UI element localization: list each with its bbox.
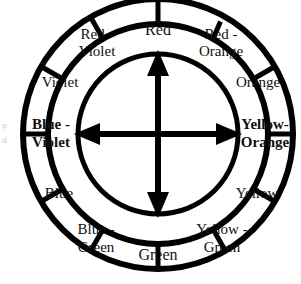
segment-label-red-orange-line1: Red -	[205, 26, 238, 42]
segment-label-violet-line1: Violet	[42, 74, 79, 90]
segment-label-red-line1: Red	[145, 21, 171, 38]
segment-label-red-violet: Red - Violet	[79, 26, 116, 59]
segment-label-blue-line1: Blue	[45, 185, 74, 201]
segment-label-blue-violet-line2: Violet	[32, 134, 70, 150]
segment-label-blue-green-line1: Blue -	[77, 221, 114, 237]
segment-label-blue: Blue	[45, 185, 74, 201]
page-edge-artifact: y: d.	[2, 118, 16, 152]
segment-label-orange: Orange	[236, 74, 280, 90]
segment-label-red-violet-line2: Violet	[79, 43, 116, 59]
page-edge-artifact-line1: y:	[2, 120, 7, 130]
page-edge-artifact-line2: d.	[2, 135, 7, 145]
segment-label-green: Green	[138, 246, 177, 263]
segment-label-yellow-line1: Yellow	[236, 185, 279, 201]
segment-label-yellow-orange-line2: Orange	[241, 134, 290, 150]
segment-label-red-violet-line1: Red -	[81, 26, 114, 42]
segment-label-orange-line1: Orange	[236, 74, 280, 90]
segment-label-yellow-green-line2: Green	[204, 239, 241, 255]
segment-label-blue-violet-line1: Blue -	[32, 116, 70, 132]
color-wheel-svg: Red Red - Orange Orange Yellow- Orange Y…	[0, 0, 301, 284]
segment-label-yellow: Yellow	[236, 185, 279, 201]
segment-label-red-orange: Red - Orange	[199, 26, 243, 59]
segment-label-red: Red	[145, 21, 171, 38]
segment-label-violet: Violet	[42, 74, 79, 90]
color-wheel-figure: Red Red - Orange Orange Yellow- Orange Y…	[0, 0, 301, 284]
segment-label-blue-green-line2: Green	[78, 239, 115, 255]
segment-label-yellow-orange-line1: Yellow-	[241, 116, 289, 132]
segment-label-red-orange-line2: Orange	[199, 43, 243, 59]
segment-label-green-line1: Green	[138, 246, 177, 263]
segment-label-yellow-green-line1: Yellow -	[196, 221, 247, 237]
